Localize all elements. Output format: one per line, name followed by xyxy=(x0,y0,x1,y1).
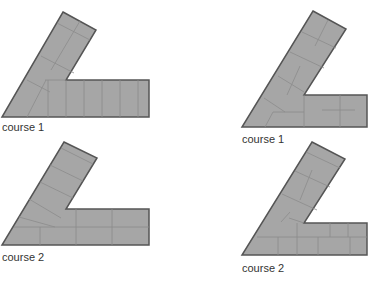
figure-label: course 2 xyxy=(242,262,284,274)
figure-left-course-1 xyxy=(2,12,149,117)
figure-right-course-1 xyxy=(242,11,367,127)
figure-right-course-2 xyxy=(242,142,367,255)
diagram-canvas xyxy=(0,0,369,283)
figure-left-course-2 xyxy=(2,142,149,245)
figure-label: course 1 xyxy=(2,121,44,133)
figure-label: course 1 xyxy=(242,133,284,145)
figure-label: course 2 xyxy=(2,251,44,263)
